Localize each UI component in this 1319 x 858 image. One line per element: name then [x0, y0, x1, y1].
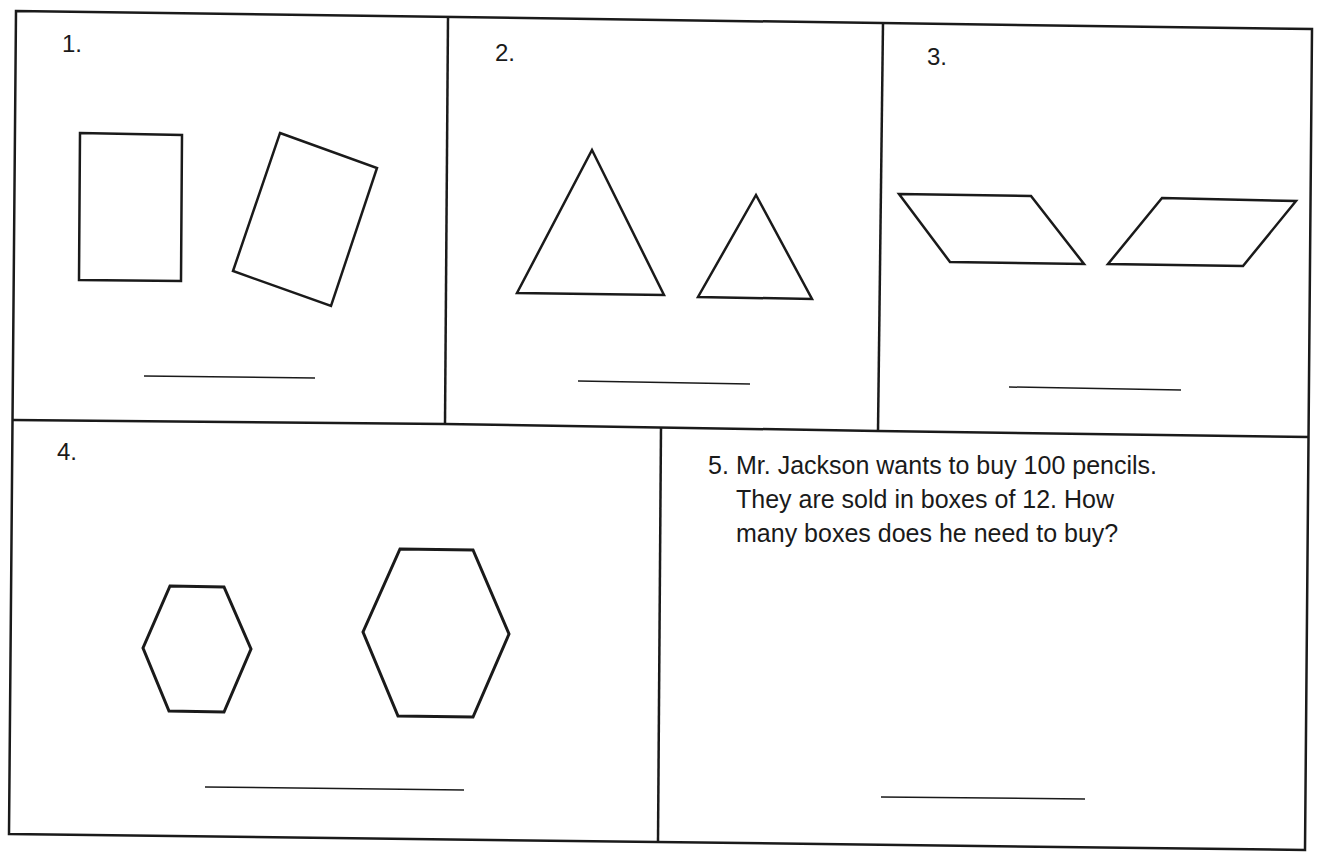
problem-5-line-3: many boxes does he need to buy? — [736, 516, 1316, 550]
problem-3-number: 3. — [927, 45, 947, 69]
answer-line-2 — [578, 381, 750, 384]
problem-1-number: 1. — [62, 32, 82, 56]
cell-divider-4-5 — [658, 427, 661, 842]
cell-divider-2-3 — [878, 23, 883, 431]
answer-line-3 — [1009, 387, 1181, 390]
rotated-rectangle-shape — [233, 133, 377, 306]
problem-5-number: 5. — [708, 448, 729, 482]
answer-line-4 — [205, 787, 464, 790]
left-parallelogram-shape — [899, 194, 1084, 264]
upright-rectangle-shape — [79, 133, 182, 281]
worksheet-sheet — [0, 0, 1319, 858]
small-hexagon-shape — [143, 586, 251, 712]
large-triangle-shape — [517, 150, 664, 295]
problem-4-number: 4. — [57, 440, 77, 464]
problem-2-number: 2. — [495, 41, 515, 65]
answer-line-1 — [144, 376, 315, 378]
problem-5-line-2: They are sold in boxes of 12. How — [736, 482, 1316, 516]
cell-divider-1-2 — [445, 17, 448, 424]
large-hexagon-shape — [363, 549, 509, 717]
small-triangle-shape — [698, 195, 812, 299]
problem-5-line-1: Mr. Jackson wants to buy 100 pencils. — [736, 448, 1316, 482]
answer-line-5 — [881, 797, 1085, 799]
problem-5-question: Mr. Jackson wants to buy 100 pencils. Th… — [736, 448, 1316, 550]
right-parallelogram-shape — [1108, 198, 1296, 266]
